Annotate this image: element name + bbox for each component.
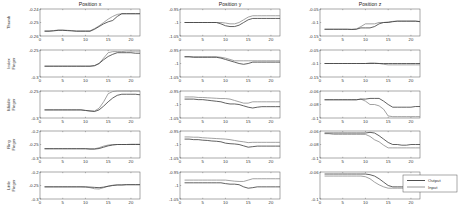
y-tick-label: -0.95: [169, 48, 179, 53]
y-tick-label: -0.1: [311, 156, 319, 161]
x-tick-label: 5: [202, 159, 205, 164]
y-tick-label: -0.26: [29, 34, 39, 39]
x-tick-label: 0: [39, 159, 42, 164]
x-tick-label: 10: [363, 78, 368, 83]
column-title-3: Position z: [359, 1, 382, 7]
x-tick-label: 20: [269, 159, 274, 164]
legend-output-label: Output: [428, 178, 441, 183]
x-tick-label: 5: [342, 200, 345, 205]
x-tick-label: 0: [319, 159, 322, 164]
x-tick-label: 5: [202, 37, 205, 42]
x-tick-label: 20: [129, 200, 134, 205]
x-tick-label: 15: [106, 200, 111, 205]
y-tick-label: -1.05: [169, 197, 179, 202]
y-tick-label: -1.05: [169, 75, 179, 80]
x-tick-label: 20: [409, 78, 414, 83]
x-tick-label: 15: [386, 37, 391, 42]
x-tick-label: 20: [129, 37, 134, 42]
x-tick-label: 5: [62, 78, 65, 83]
x-tick-label: 5: [62, 37, 65, 42]
x-tick-label: 15: [246, 78, 251, 83]
x-tick-label: 10: [83, 119, 88, 124]
panel-r3-c1: 05101520-0.25-0.3: [29, 89, 140, 124]
x-tick-label: 10: [83, 37, 88, 42]
x-tick-label: 0: [319, 37, 322, 42]
row-label-line: Thumb: [6, 15, 11, 29]
x-tick-label: 10: [83, 159, 88, 164]
x-tick-label: 15: [386, 119, 391, 124]
y-tick-label: -0.95: [169, 170, 179, 175]
y-tick-label: -0.25: [29, 48, 39, 53]
x-tick-label: 0: [39, 119, 42, 124]
y-tick-label: -0.1: [311, 61, 319, 66]
panel-r4-c1: 05101520-0.2-0.25-0.3: [29, 129, 140, 164]
x-tick-label: 10: [363, 119, 368, 124]
x-tick-label: 5: [62, 119, 65, 124]
x-tick-label: 15: [106, 37, 111, 42]
y-tick-label: -0.95: [169, 89, 179, 94]
row-label-line: Finger: [11, 179, 16, 191]
x-tick-label: 0: [179, 37, 182, 42]
x-tick-label: 20: [409, 37, 414, 42]
x-tick-label: 0: [39, 37, 42, 42]
x-tick-label: 20: [409, 119, 414, 124]
panel-r1-c2: 05101520-0.95-1-1.05: [169, 7, 280, 42]
panel-r1-c3: 05101520-0.05-0.1-0.15: [309, 7, 420, 42]
column-title-2: Position y: [219, 1, 242, 7]
y-tick-label: -0.24: [29, 7, 39, 12]
row-label-4: RingFinger: [6, 138, 16, 150]
x-tick-label: 5: [62, 200, 65, 205]
y-tick-label: -0.2: [31, 129, 39, 134]
x-tick-label: 5: [342, 119, 345, 124]
x-tick-label: 10: [363, 200, 368, 205]
y-tick-label: -0.06: [309, 129, 319, 134]
x-tick-label: 15: [246, 119, 251, 124]
x-tick-label: 10: [223, 37, 228, 42]
plot-frame: [180, 91, 280, 118]
y-tick-label: -0.3: [31, 116, 39, 121]
y-tick-label: -0.3: [31, 75, 39, 80]
y-tick-label: -0.1: [311, 116, 319, 121]
y-tick-label: -0.25: [29, 183, 39, 188]
panel-r4-c2: 05101520-0.95-1-1.05: [169, 129, 280, 164]
x-tick-label: 15: [246, 200, 251, 205]
y-tick-label: -1: [175, 142, 179, 147]
figure: Position xPosition yPosition zThumbIndex…: [0, 0, 469, 215]
row-label-5: LittleFinger: [6, 179, 16, 191]
plot-frame: [40, 91, 140, 118]
y-tick-label: -0.3: [31, 156, 39, 161]
y-tick-label: -0.06: [309, 170, 319, 175]
y-tick-label: -0.15: [309, 75, 319, 80]
x-tick-label: 5: [342, 37, 345, 42]
x-tick-label: 5: [342, 159, 345, 164]
y-tick-label: -0.95: [169, 7, 179, 12]
x-tick-label: 0: [179, 200, 182, 205]
y-tick-label: -0.05: [309, 7, 319, 12]
panel-r2-c1: 05101520-0.25-0.3: [29, 48, 140, 83]
plot-frame: [40, 50, 140, 77]
x-tick-label: 5: [202, 200, 205, 205]
x-tick-label: 0: [179, 119, 182, 124]
plot-frame: [320, 9, 420, 36]
y-tick-label: -0.2: [31, 170, 39, 175]
legend-input-label: Input: [428, 185, 438, 190]
legend: Output Input: [403, 175, 457, 192]
x-tick-label: 20: [409, 159, 414, 164]
x-tick-label: 10: [363, 159, 368, 164]
y-tick-label: -0.05: [309, 48, 319, 53]
x-tick-label: 10: [223, 159, 228, 164]
x-tick-label: 20: [129, 159, 134, 164]
x-tick-label: 20: [129, 119, 134, 124]
plot-frame: [320, 131, 420, 158]
y-tick-label: -0.3: [31, 197, 39, 202]
x-tick-label: 0: [319, 78, 322, 83]
panel-r3-c2: 05101520-0.95-1-1.05: [169, 89, 280, 124]
x-tick-label: 10: [83, 200, 88, 205]
panel-r2-c2: 05101520-0.95-1-1.05: [169, 48, 280, 83]
x-tick-label: 20: [269, 78, 274, 83]
x-tick-label: 0: [39, 78, 42, 83]
y-tick-label: -0.08: [309, 142, 319, 147]
y-tick-label: -1.05: [169, 116, 179, 121]
x-tick-label: 0: [319, 119, 322, 124]
x-tick-label: 15: [246, 159, 251, 164]
